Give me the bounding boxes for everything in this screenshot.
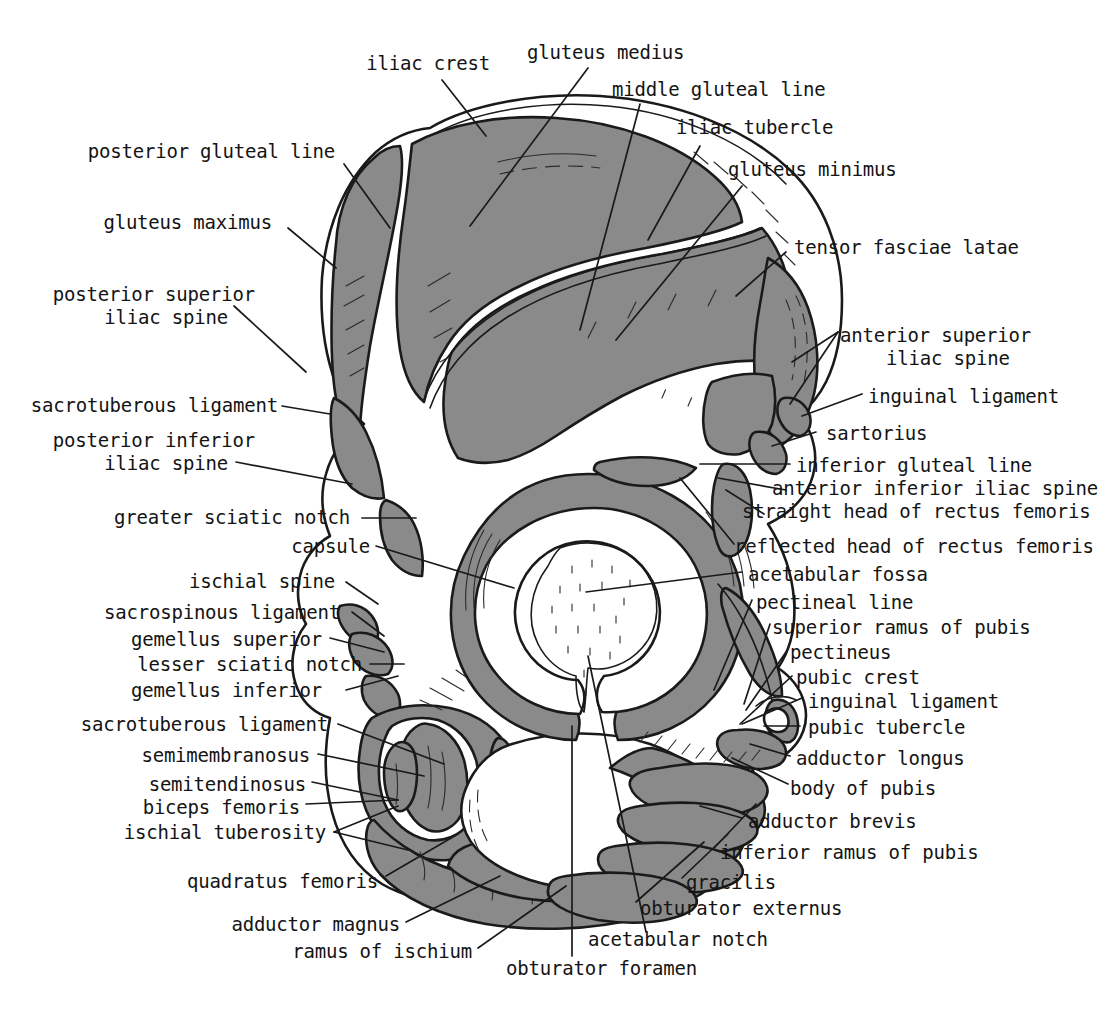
label-adductor-brevis: adductor brevis [748, 810, 917, 833]
label-sacrotuberous-ligament-top: sacrotuberous ligament [10, 394, 278, 417]
label-obturator-foramen: obturator foramen [506, 957, 697, 980]
label-lesser-sciatic-notch: lesser sciatic notch [10, 653, 362, 676]
label-obturator-externus: obturator externus [640, 897, 842, 920]
label-gluteus-maximus: gluteus maximus [10, 211, 272, 234]
label-gemellus-inferior: gemellus inferior [10, 679, 322, 702]
label-adductor-magnus: adductor magnus [10, 913, 400, 936]
label-inferior-gluteal-line: inferior gluteal line [796, 454, 1032, 477]
label-tensor-fasciae-latae: tensor fasciae latae [794, 236, 1019, 259]
label-quadratus-femoris: quadratus femoris [10, 870, 378, 893]
label-posterior-superior-iliac-spine-line2: iliac spine [10, 306, 228, 329]
label-sacrospinous-ligament: sacrospinous ligament [10, 601, 340, 624]
figure-canvas: .ink { fill:none; stroke:#1a1a1a; stroke… [0, 0, 1108, 1022]
label-posterior-superior-iliac-spine-line1: posterior superior [10, 283, 255, 306]
label-adductor-longus: adductor longus [796, 747, 965, 770]
label-superior-ramus-of-pubis: superior ramus of pubis [772, 616, 1031, 639]
label-anterior-superior-iliac-spine-line2: iliac spine [886, 347, 1010, 370]
label-inguinal-ligament-bottom: inguinal ligament [808, 690, 999, 713]
label-ischial-tuberosity: ischial tuberosity [10, 821, 326, 844]
label-body-of-pubis: body of pubis [790, 777, 936, 800]
label-semitendinosus: semitendinosus [10, 773, 306, 796]
label-gluteus-medius: gluteus medius [527, 41, 684, 64]
label-posterior-gluteal-line: posterior gluteal line [10, 140, 335, 163]
label-pectineal-line: pectineal line [756, 591, 913, 614]
label-posterior-inferior-iliac-spine-line1: posterior inferior [10, 429, 255, 452]
label-pubic-crest: pubic crest [796, 666, 920, 689]
label-posterior-inferior-iliac-spine-line2: iliac spine [10, 452, 228, 475]
label-ramus-of-ischium: ramus of ischium [10, 940, 472, 963]
label-reflected-head-of-rectus-femoris: reflected head of rectus femoris [734, 535, 1094, 558]
label-straight-head-of-rectus-femoris: straight head of rectus femoris [742, 500, 1090, 523]
label-capsule: capsule [10, 535, 370, 558]
label-sartorius: sartorius [826, 422, 927, 445]
label-pubic-tubercle: pubic tubercle [808, 716, 965, 739]
label-acetabular-notch: acetabular notch [588, 928, 768, 951]
label-inguinal-ligament-top: inguinal ligament [868, 385, 1059, 408]
label-gemellus-superior: gemellus superior [10, 628, 322, 651]
label-biceps-femoris: biceps femoris [10, 796, 300, 819]
label-anterior-inferior-iliac-spine: anterior inferior iliac spine [772, 477, 1098, 500]
label-gluteus-minimus: gluteus minimus [728, 158, 897, 181]
label-middle-gluteal-line: middle gluteal line [612, 78, 826, 101]
label-iliac-tubercle: iliac tubercle [676, 116, 833, 139]
label-inferior-ramus-of-pubis: inferior ramus of pubis [720, 841, 979, 864]
label-pectineus: pectineus [790, 641, 891, 664]
label-iliac-crest: iliac crest [190, 52, 490, 75]
label-sacrotuberous-ligament-bottom: sacrotuberous ligament [10, 713, 328, 736]
label-ischial-spine: ischial spine [10, 570, 335, 593]
label-semimembranosus: semimembranosus [10, 744, 310, 767]
label-greater-sciatic-notch: greater sciatic notch [10, 506, 350, 529]
label-acetabular-fossa: acetabular fossa [748, 563, 928, 586]
label-gracilis: gracilis [686, 871, 776, 894]
label-anterior-superior-iliac-spine-line1: anterior superior [840, 324, 1031, 347]
